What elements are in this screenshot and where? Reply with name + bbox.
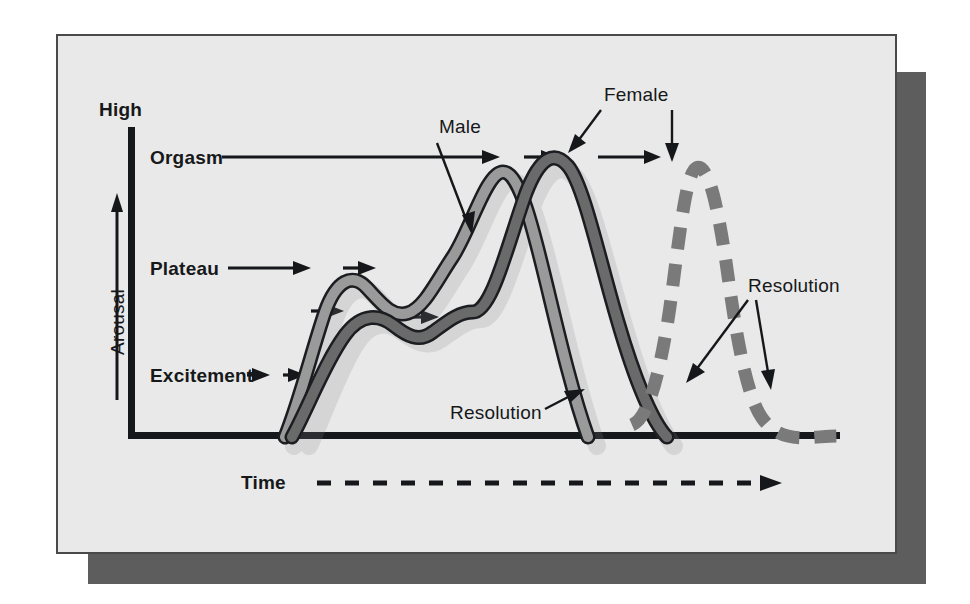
phase-label-orgasm: Orgasm — [150, 147, 223, 168]
sexual-response-cycle-figure: High Arousal Time Orgasm Plateau Excit — [0, 0, 970, 604]
curve-label-resolution-male: Resolution — [450, 402, 542, 423]
axis-label-high: High — [99, 99, 142, 120]
phase-label-excitement: Excitement — [150, 365, 254, 386]
curve-label-male: Male — [439, 116, 481, 137]
axis-label-time: Time — [241, 472, 286, 493]
y-axis-line — [128, 127, 135, 438]
phase-label-plateau: Plateau — [150, 258, 219, 279]
figure-container: High Arousal Time Orgasm Plateau Excit — [0, 0, 970, 604]
curve-label-female: Female — [604, 84, 669, 105]
axis-label-arousal: Arousal — [107, 289, 128, 355]
x-axis-line — [128, 432, 840, 439]
curve-label-resolution-female: Resolution — [748, 275, 840, 296]
